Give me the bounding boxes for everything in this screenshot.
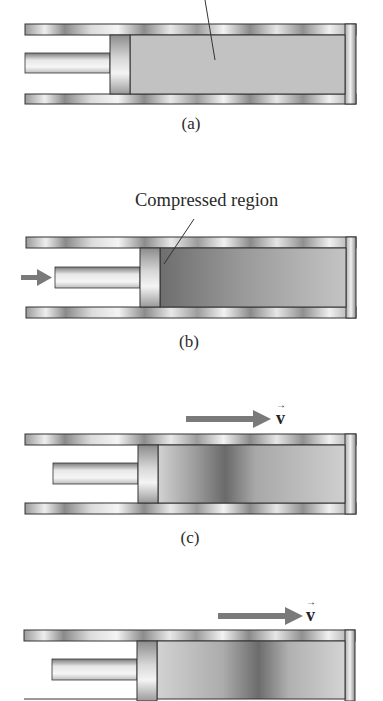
gas-region-compressed (160, 248, 346, 307)
panel-a (25, 0, 356, 104)
gas-region-pulse (157, 641, 345, 699)
piston-head (140, 248, 160, 307)
piston-head (138, 445, 158, 503)
gas-region (130, 35, 345, 94)
panel-c-label: (c) (181, 528, 200, 548)
vector-arrow-icon: → (306, 596, 316, 607)
end-cap (345, 24, 356, 104)
piston-rod (55, 267, 140, 288)
piston-rod (25, 53, 110, 73)
panel-b-label: (b) (179, 332, 199, 352)
velocity-symbol: v (306, 605, 315, 625)
velocity-arrow-icon (186, 410, 271, 428)
piston-head (137, 641, 157, 701)
velocity-arrow-icon (218, 607, 303, 625)
velocity-symbol: v (276, 408, 285, 428)
vector-arrow-icon: → (276, 399, 286, 410)
piston-rod (52, 659, 137, 680)
top-wall (26, 237, 356, 248)
piston-rod (53, 463, 138, 484)
top-wall (24, 630, 355, 641)
velocity-label-c: → v (276, 408, 285, 429)
end-cap (345, 434, 356, 514)
top-wall (25, 24, 356, 35)
push-arrow-icon (21, 269, 52, 286)
bottom-wall (25, 503, 356, 514)
compressed-region-callout: Compressed region (135, 190, 278, 211)
top-wall (25, 434, 356, 445)
gas-region-pulse (158, 445, 345, 503)
end-cap (345, 630, 355, 701)
panel-c (25, 410, 356, 514)
panel-b (21, 219, 356, 318)
piston-head (110, 35, 130, 94)
bottom-wall (25, 94, 356, 104)
velocity-label-d: → v (306, 605, 315, 626)
panel-a-label: (a) (182, 114, 201, 134)
end-cap (346, 237, 356, 318)
bottom-wall (26, 307, 356, 318)
